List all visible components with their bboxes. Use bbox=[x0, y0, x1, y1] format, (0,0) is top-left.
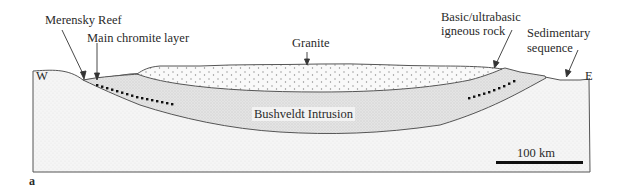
merensky-reef-label: Merensky Reef bbox=[45, 13, 122, 27]
bushveldt-intrusion-label: Bushveldt Intrusion bbox=[252, 107, 355, 121]
panel-label: a bbox=[29, 174, 35, 189]
cross-section-diagram bbox=[0, 0, 618, 189]
basic-ultrabasic-label-line2: igneous rock bbox=[441, 24, 505, 38]
scale-bar bbox=[496, 161, 583, 164]
sedimentary-sequence-label-line2: sequence bbox=[527, 41, 573, 55]
west-direction-label: W bbox=[36, 69, 48, 83]
granite-label: Granite bbox=[292, 36, 329, 50]
sedimentary-sequence-label-line1: Sedimentary bbox=[527, 26, 590, 40]
basic-ultrabasic-label-line1: Basic/ultrabasic bbox=[441, 10, 521, 24]
east-direction-label: E bbox=[585, 69, 593, 83]
main-chromite-layer-label: Main chromite layer bbox=[87, 31, 189, 45]
scale-bar-label: 100 km bbox=[517, 146, 555, 160]
